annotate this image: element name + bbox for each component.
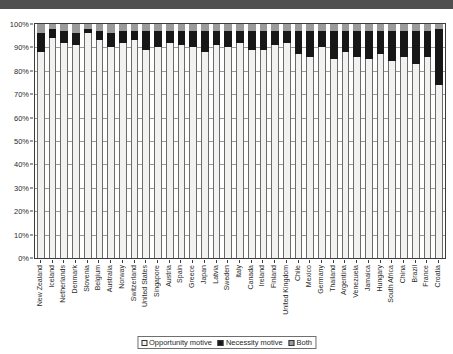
plot-area xyxy=(34,23,446,259)
bar-column[interactable] xyxy=(60,24,68,258)
bar-segment-both xyxy=(248,24,256,31)
bar-column[interactable] xyxy=(119,24,127,258)
x-axis-tick-mark xyxy=(391,260,392,263)
x-axis-tick-mark xyxy=(192,260,193,263)
bar-segment-opportunity xyxy=(178,45,186,258)
bar-segment-opportunity xyxy=(271,45,279,258)
bar-segment-both xyxy=(96,24,104,31)
bar-column[interactable] xyxy=(166,24,174,258)
y-axis: 100%90%80%70%60%50%40%30%20%10%0% xyxy=(0,23,33,259)
bar-segment-necessity xyxy=(342,31,350,52)
bar-column[interactable] xyxy=(271,24,279,258)
x-axis-tick-mark xyxy=(426,260,427,263)
bar-column[interactable] xyxy=(189,24,197,258)
bar-column[interactable] xyxy=(365,24,373,258)
y-axis-tick-label: 10% xyxy=(14,230,29,239)
bar-column[interactable] xyxy=(213,24,221,258)
x-axis-tick-mark xyxy=(40,260,41,263)
bar-segment-both xyxy=(119,24,127,31)
legend-item[interactable]: Opportunity motive xyxy=(141,338,212,347)
bar-column[interactable] xyxy=(388,24,396,258)
bar-segment-opportunity xyxy=(142,50,150,258)
x-axis-tick-label: Germany xyxy=(317,265,325,294)
bar-segment-necessity xyxy=(435,29,443,85)
bar-column[interactable] xyxy=(306,24,314,258)
x-axis-tick-mark xyxy=(356,260,357,263)
x-axis-tick-mark xyxy=(180,260,181,263)
bar-column[interactable] xyxy=(131,24,139,258)
bar-segment-necessity xyxy=(365,31,373,59)
bar-column[interactable] xyxy=(96,24,104,258)
bar-column[interactable] xyxy=(178,24,186,258)
bar-segment-opportunity xyxy=(424,57,432,258)
bar-column[interactable] xyxy=(260,24,268,258)
y-axis-tick-mark xyxy=(30,187,33,188)
bar-column[interactable] xyxy=(412,24,420,258)
x-axis-tick-label: Chile xyxy=(294,265,302,281)
bar-column[interactable] xyxy=(377,24,385,258)
bar-segment-both xyxy=(318,24,326,31)
bar-column[interactable] xyxy=(142,24,150,258)
x-axis-tick-label: Mexico xyxy=(305,265,313,287)
bar-segment-necessity xyxy=(37,33,45,52)
x-axis-tick-mark xyxy=(169,260,170,263)
y-axis-tick-mark xyxy=(30,94,33,95)
bar-column[interactable] xyxy=(424,24,432,258)
y-axis-tick-mark xyxy=(30,211,33,212)
x-axis-tick-mark xyxy=(403,260,404,263)
bar-column[interactable] xyxy=(353,24,361,258)
x-axis-tick-label: Singapore xyxy=(153,265,161,297)
bar-column[interactable] xyxy=(154,24,162,258)
legend-label: Both xyxy=(297,338,312,347)
x-axis-tick-mark xyxy=(415,260,416,263)
bar-segment-opportunity xyxy=(166,43,174,258)
bar-column[interactable] xyxy=(342,24,350,258)
bar-column[interactable] xyxy=(107,24,115,258)
bar-segment-both xyxy=(388,24,396,31)
bar-column[interactable] xyxy=(248,24,256,258)
y-axis-tick-label: 50% xyxy=(14,137,29,146)
bar-segment-necessity xyxy=(119,31,127,43)
legend-item[interactable]: Both xyxy=(289,338,312,347)
bar-segment-necessity xyxy=(330,31,338,59)
y-axis-tick-mark xyxy=(30,164,33,165)
y-axis-tick-label: 20% xyxy=(14,207,29,216)
bar-segment-both xyxy=(131,24,139,31)
x-axis-tick-label: Ireland xyxy=(258,265,266,286)
plot-area-wrapper xyxy=(34,23,446,259)
bar-segment-necessity xyxy=(201,31,209,52)
bar-column[interactable] xyxy=(318,24,326,258)
bar-column[interactable] xyxy=(330,24,338,258)
bar-column[interactable] xyxy=(201,24,209,258)
legend-item[interactable]: Necessity motive xyxy=(218,338,283,347)
bar-segment-opportunity xyxy=(248,50,256,258)
bar-column[interactable] xyxy=(400,24,408,258)
bar-segment-opportunity xyxy=(400,57,408,258)
x-axis-tick-label: Norway xyxy=(118,265,126,289)
bar-segment-necessity xyxy=(283,31,291,43)
bar-column[interactable] xyxy=(224,24,232,258)
x-axis-tick-label: Switzerland xyxy=(130,265,138,301)
x-axis-tick-label: United States xyxy=(141,265,149,307)
bar-segment-opportunity xyxy=(107,47,115,258)
bar-segment-both xyxy=(60,24,68,31)
bar-column[interactable] xyxy=(84,24,92,258)
x-axis-tick-mark xyxy=(274,260,275,263)
x-axis-tick-mark xyxy=(298,260,299,263)
bar-column[interactable] xyxy=(49,24,57,258)
bar-segment-necessity xyxy=(306,31,314,57)
bar-column[interactable] xyxy=(236,24,244,258)
bar-segment-opportunity xyxy=(49,38,57,258)
bar-column[interactable] xyxy=(295,24,303,258)
bar-segment-opportunity xyxy=(201,52,209,258)
bar-column[interactable] xyxy=(37,24,45,258)
y-axis-tick-label: 70% xyxy=(14,90,29,99)
bar-column[interactable] xyxy=(435,24,443,258)
x-axis-tick-label: South Africa xyxy=(387,265,395,303)
bar-column[interactable] xyxy=(72,24,80,258)
y-axis-tick-label: 80% xyxy=(14,66,29,75)
bar-segment-opportunity xyxy=(435,85,443,258)
x-axis-tick-label: Venezuela xyxy=(352,265,360,298)
bar-column[interactable] xyxy=(283,24,291,258)
x-axis-tick-label: Slovenia xyxy=(83,265,91,292)
